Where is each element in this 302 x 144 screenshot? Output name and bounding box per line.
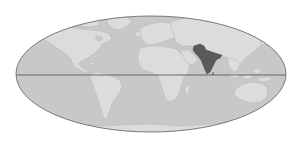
antarctica — [20, 122, 285, 140]
map-svg — [0, 0, 302, 144]
world-map: World map with highlighted region — [0, 0, 302, 144]
new-zealand — [276, 103, 279, 110]
arctic-islands — [78, 19, 100, 27]
